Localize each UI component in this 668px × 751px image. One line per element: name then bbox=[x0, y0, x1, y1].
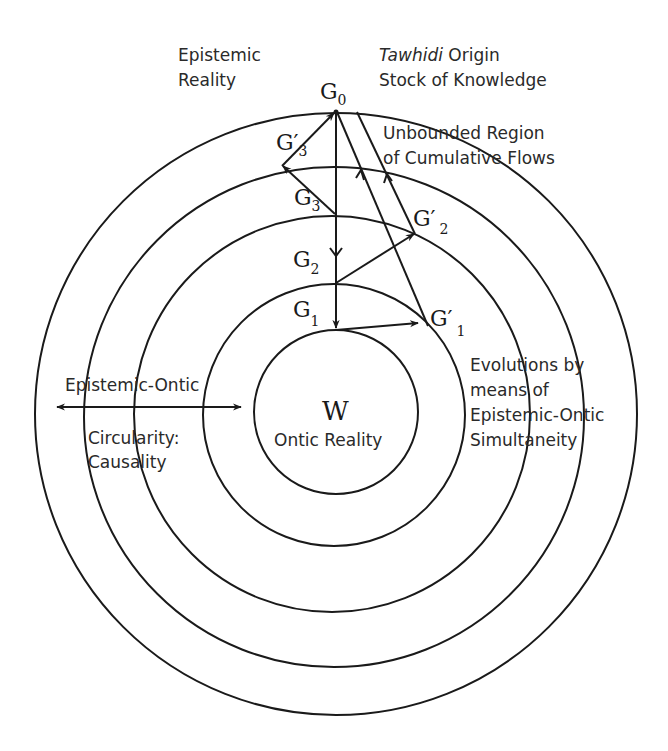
node-g2: G2 bbox=[293, 247, 320, 277]
g0-point bbox=[334, 110, 339, 115]
epistemic-reality-label-line2: Reality bbox=[178, 70, 236, 90]
node-g2prime: G′2 bbox=[413, 206, 449, 237]
stock-of-knowledge-label: Stock of Knowledge bbox=[379, 70, 547, 90]
arrow-g1-to-g1prime bbox=[336, 323, 418, 330]
node-g3prime: G′3 bbox=[276, 130, 308, 159]
unbounded-region-label-line2: of Cumulative Flows bbox=[383, 148, 555, 168]
node-g3: G3 bbox=[294, 185, 321, 214]
tawhidi-circular-causation-diagram: G0 G′3 G3 G′2 G2 G1 G′1 Epistemic Realit… bbox=[0, 0, 668, 751]
node-g1prime: G′1 bbox=[430, 306, 466, 339]
node-g0: G0 bbox=[320, 79, 347, 108]
causality-label: Causality bbox=[88, 452, 167, 472]
circularity-label: Circularity: bbox=[88, 428, 179, 448]
arrow-g2-to-g2prime bbox=[336, 234, 414, 283]
center-w-symbol: W bbox=[322, 396, 349, 426]
epistemic-ontic-label: Epistemic-Ontic bbox=[65, 375, 199, 395]
unbounded-region-label-line1: Unbounded Region bbox=[383, 123, 545, 143]
evolutions-label-line2: means of bbox=[470, 380, 550, 400]
node-labels: G0 G′3 G3 G′2 G2 G1 G′1 bbox=[276, 79, 466, 339]
evolutions-label-line3: Epistemic-Ontic bbox=[470, 405, 604, 425]
flow-arrows bbox=[57, 110, 428, 408]
epistemic-reality-label-line1: Epistemic bbox=[178, 45, 261, 65]
evolutions-label-line1: Evolutions by bbox=[470, 355, 584, 375]
ontic-reality-label: Ontic Reality bbox=[274, 430, 382, 450]
node-g1: G1 bbox=[293, 297, 320, 329]
tawhidi-origin-label: Tawhidi Origin bbox=[379, 45, 500, 65]
evolutions-label-line4: Simultaneity bbox=[470, 430, 577, 450]
